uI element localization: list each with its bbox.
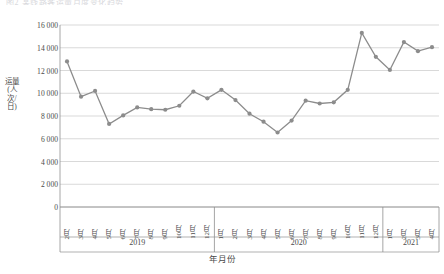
data-point-markers [65,31,434,135]
data-point [332,100,336,104]
data-point [93,89,97,93]
group-label-2021: 2021 [403,238,419,247]
data-point [163,108,167,112]
data-point [205,96,209,100]
data-point [233,98,237,102]
gridlines [60,25,439,207]
data-point [261,120,265,124]
x-axis-title: 年月份 [0,252,444,264]
data-point [79,95,83,99]
data-point [402,40,406,44]
chart-figure: 图2 某线路客运量月度变化趋势 运量(人次/日) 02 0004 0006 00… [0,0,444,274]
x-tick-label: 10月 [343,225,353,239]
data-point [304,99,308,103]
x-tick-label: 10月 [174,225,184,239]
group-label-2020: 2020 [291,238,307,247]
data-point [290,118,294,122]
data-point [275,130,279,134]
data-point [65,59,69,63]
data-point [430,45,434,49]
data-point [149,107,153,111]
data-point [247,112,251,116]
data-point [219,88,223,92]
data-point [191,89,195,93]
x-tick-label: 12月 [371,225,381,239]
x-tick-label: 11月 [357,225,367,239]
data-point [107,122,111,126]
data-point [416,49,420,53]
data-point [135,105,139,109]
data-point [121,113,125,117]
x-tick-label: 11月 [188,225,198,239]
data-point [374,55,378,59]
data-point [360,31,364,35]
group-label-2019: 2019 [129,238,145,247]
data-point [346,88,350,92]
data-point [388,68,392,72]
data-point [177,104,181,108]
data-point [318,101,322,105]
x-axis-ticks: 2月3月4月5月6月7月8月9月10月11月12月1月2月3月4月5月6月7月8… [0,209,444,239]
x-tick-label: 12月 [202,225,212,239]
